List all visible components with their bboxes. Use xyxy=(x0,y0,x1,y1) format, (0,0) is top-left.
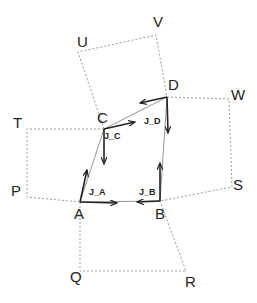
label-point-q: Q xyxy=(70,268,82,285)
label-point-v: V xyxy=(153,13,163,30)
label-point-u: U xyxy=(77,33,88,50)
label-point-d: D xyxy=(168,76,179,93)
joint-d-arrows xyxy=(140,97,168,133)
label-point-s: S xyxy=(233,176,243,193)
square-cd xyxy=(78,35,167,129)
square-db xyxy=(160,97,232,201)
joint-c-arrows xyxy=(104,122,135,164)
label-point-t: T xyxy=(13,114,22,131)
label-point-a: A xyxy=(74,205,84,222)
label-joint-b: J_B xyxy=(139,187,156,197)
label-joint-c: J_C xyxy=(104,131,121,141)
label-point-b: B xyxy=(155,205,165,222)
label-point-w: W xyxy=(231,86,246,103)
label-point-r: R xyxy=(185,273,196,290)
label-joint-d: J_D xyxy=(144,116,161,126)
label-point-p: P xyxy=(11,182,21,199)
label-point-c: C xyxy=(97,109,108,126)
label-joint-a: J_A xyxy=(89,187,106,197)
geometry-diagram: A B C D U V W S T P Q R J_A J_B J_C J_D xyxy=(0,0,257,303)
square-ab xyxy=(80,201,186,271)
